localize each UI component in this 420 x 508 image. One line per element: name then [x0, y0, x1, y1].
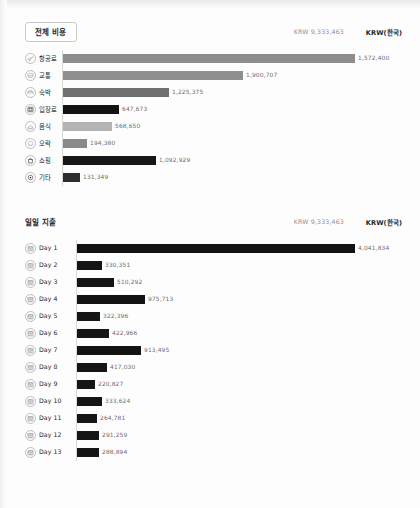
category-label: Day 2 — [39, 261, 58, 268]
section-total-amount: KRW 9,333,463 — [294, 218, 344, 225]
chart-row: 교통1,900,707 — [0, 67, 420, 84]
category-label: Day 5 — [39, 312, 58, 319]
section-title: 전체 비용 — [25, 22, 77, 42]
chart-row: 음식568,650 — [0, 118, 420, 135]
category-label: 교통 — [39, 71, 51, 80]
category-label: Day 6 — [39, 329, 58, 336]
value-bar — [63, 156, 156, 165]
chart-row: Day 7913,495 — [0, 342, 420, 359]
bar-value-label: 264,781 — [100, 415, 125, 421]
bar-value-label: 1,572,400 — [358, 55, 389, 61]
section-daily-expenses: 일일 지출 KRW 9,333,463 KRW(한국) Day 14,041,8… — [0, 212, 420, 461]
bar-value-label: 322,396 — [103, 313, 128, 319]
chart-row: 오락194,380 — [0, 135, 420, 152]
category-label: Day 4 — [39, 295, 58, 302]
category-label: 기타 — [39, 173, 51, 182]
calendar-icon — [25, 328, 36, 339]
bar-value-label: 510,292 — [117, 279, 142, 285]
calendar-icon — [25, 413, 36, 424]
value-bar — [77, 414, 97, 423]
section-header: 일일 지출 KRW 9,333,463 KRW(한국) — [0, 212, 420, 234]
value-bar — [63, 122, 112, 131]
bar-value-label: 291,259 — [102, 432, 127, 438]
chart-row: 항공료1,572,400 — [0, 50, 420, 67]
chart-row: 쇼핑1,092,929 — [0, 152, 420, 169]
bar-value-label: 220,827 — [98, 381, 123, 387]
category-label: Day 3 — [39, 278, 58, 285]
calendar-icon — [25, 430, 36, 441]
ticket-icon — [25, 104, 36, 115]
bar-value-label: 913,495 — [144, 347, 169, 353]
chart-row: 숙박1,225,375 — [0, 84, 420, 101]
value-bar — [77, 261, 102, 270]
value-bar — [63, 105, 119, 114]
calendar-icon — [25, 447, 36, 458]
chart-row: 기타131,349 — [0, 169, 420, 186]
bar-value-label: 647,673 — [122, 106, 147, 112]
chart-row: Day 14,041,834 — [0, 240, 420, 257]
bar-value-label: 288,894 — [102, 449, 127, 455]
chart-row: Day 4975,713 — [0, 291, 420, 308]
value-bar — [63, 88, 169, 97]
category-label: Day 13 — [39, 448, 62, 455]
value-bar — [77, 329, 109, 338]
bar-value-label: 422,966 — [112, 330, 137, 336]
bar-value-label: 330,351 — [105, 262, 130, 268]
overall-cost-chart: 항공료1,572,400교통1,900,707숙박1,225,375입장료647… — [0, 50, 420, 186]
calendar-icon — [25, 243, 36, 254]
chart-row: Day 10333,624 — [0, 393, 420, 410]
food-icon — [25, 121, 36, 132]
value-bar — [63, 139, 87, 148]
chart-row: Day 6422,966 — [0, 325, 420, 342]
bar-value-label: 131,349 — [83, 174, 108, 180]
chart-row: Day 11264,781 — [0, 410, 420, 427]
value-bar — [77, 312, 100, 321]
bar-value-label: 417,030 — [110, 364, 135, 370]
category-label: Day 10 — [39, 397, 62, 404]
chart-row: Day 9220,827 — [0, 376, 420, 393]
bar-value-label: 1,092,929 — [159, 157, 190, 163]
category-label: 쇼핑 — [39, 156, 51, 165]
value-bar — [63, 71, 243, 80]
category-label: Day 8 — [39, 363, 58, 370]
section-header: 전체 비용 KRW 9,333,463 KRW(한국) — [0, 22, 420, 44]
category-label: 오락 — [39, 139, 51, 148]
value-bar — [77, 346, 141, 355]
bar-value-label: 1,225,375 — [172, 89, 203, 95]
calendar-icon — [25, 260, 36, 271]
calendar-icon — [25, 311, 36, 322]
category-label: 항공료 — [39, 54, 57, 63]
value-bar — [77, 278, 114, 287]
bar-value-label: 1,900,707 — [246, 72, 277, 78]
category-label: 음식 — [39, 122, 51, 131]
bar-value-label: 4,041,834 — [358, 245, 389, 251]
value-bar — [77, 431, 99, 440]
calendar-icon — [25, 396, 36, 407]
value-bar — [77, 295, 145, 304]
calendar-icon — [25, 277, 36, 288]
bed-icon — [25, 87, 36, 98]
chart-row: Day 3510,292 — [0, 274, 420, 291]
category-label: 입장료 — [39, 105, 57, 114]
category-label: Day 1 — [39, 244, 58, 251]
pin-icon — [25, 172, 36, 183]
daily-expenses-chart: Day 14,041,834Day 2330,351Day 3510,292Da… — [0, 240, 420, 461]
smile-icon — [25, 138, 36, 149]
chart-row: Day 12291,259 — [0, 427, 420, 444]
value-bar — [63, 54, 355, 63]
scan-edge-top — [0, 0, 420, 9]
category-label: Day 9 — [39, 380, 58, 387]
value-bar — [63, 173, 80, 182]
section-overall-cost: 전체 비용 KRW 9,333,463 KRW(한국) 항공료1,572,400… — [0, 22, 420, 186]
chart-row: Day 13288,894 — [0, 444, 420, 461]
category-label: Day 11 — [39, 414, 62, 421]
bar-value-label: 333,624 — [105, 398, 130, 404]
chart-row: Day 8417,030 — [0, 359, 420, 376]
chart-row: 입장료647,673 — [0, 101, 420, 118]
airplane-icon — [25, 53, 36, 64]
value-bar — [77, 380, 95, 389]
calendar-icon — [25, 294, 36, 305]
calendar-icon — [25, 379, 36, 390]
report-page: 전체 비용 KRW 9,333,463 KRW(한국) 항공료1,572,400… — [0, 0, 420, 508]
bar-value-label: 194,380 — [90, 140, 115, 146]
